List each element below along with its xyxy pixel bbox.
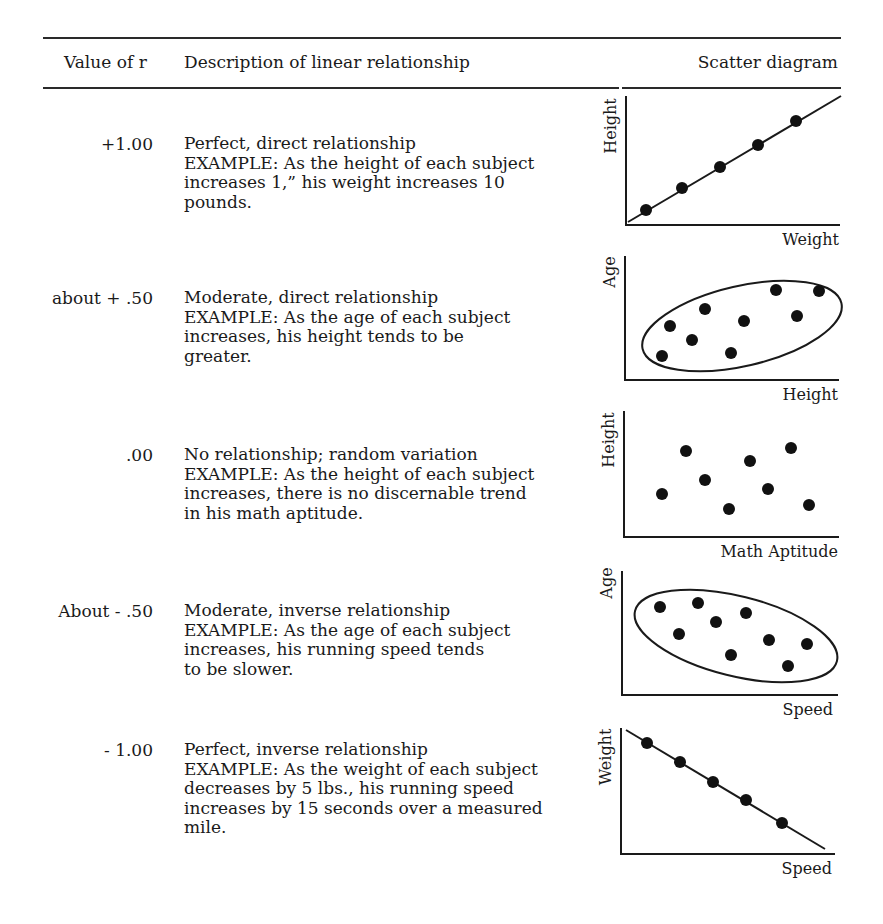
axes xyxy=(625,256,839,380)
trend-line xyxy=(626,730,825,849)
data-point xyxy=(740,607,752,619)
data-point xyxy=(744,455,756,467)
data-point xyxy=(674,756,686,768)
correlation-ellipse xyxy=(625,572,846,700)
x-axis-label: Speed xyxy=(783,700,833,719)
x-axis-label: Speed xyxy=(782,859,832,878)
data-point xyxy=(699,303,711,315)
data-point xyxy=(738,315,750,327)
data-point xyxy=(673,628,685,640)
data-point xyxy=(763,634,775,646)
data-point xyxy=(680,445,692,457)
data-point xyxy=(710,616,722,628)
data-point xyxy=(801,638,813,650)
data-point xyxy=(699,474,711,486)
y-axis-label: Height xyxy=(599,412,618,468)
data-point xyxy=(782,660,794,672)
data-point xyxy=(723,503,735,515)
data-point xyxy=(692,597,704,609)
data-point xyxy=(790,115,802,127)
data-point xyxy=(770,284,782,296)
data-point xyxy=(725,649,737,661)
x-axis-label: Height xyxy=(782,385,838,404)
data-point xyxy=(776,817,788,829)
data-point xyxy=(725,347,737,359)
data-point xyxy=(714,161,726,173)
data-point xyxy=(740,794,752,806)
axes xyxy=(624,411,839,537)
x-axis-label: Math Aptitude xyxy=(720,542,838,561)
data-point xyxy=(762,483,774,495)
data-point xyxy=(654,601,666,613)
data-point xyxy=(707,776,719,788)
data-point xyxy=(752,139,764,151)
data-point xyxy=(813,285,825,297)
data-point xyxy=(791,310,803,322)
data-point xyxy=(656,488,668,500)
data-point xyxy=(785,442,797,454)
y-axis-label: Weight xyxy=(596,728,615,785)
data-point xyxy=(656,350,668,362)
y-axis-label: Age xyxy=(600,256,619,288)
y-axis-label: Height xyxy=(601,98,620,154)
data-point xyxy=(803,499,815,511)
y-axis-label: Age xyxy=(597,567,616,599)
data-point xyxy=(664,320,676,332)
data-point xyxy=(686,334,698,346)
data-point xyxy=(640,204,652,216)
scatter-diagrams: Height Weight Age Height Height Math Apt… xyxy=(0,0,883,924)
trend-line xyxy=(628,96,841,222)
data-point xyxy=(641,737,653,749)
x-axis-label: Weight xyxy=(782,230,839,249)
data-point xyxy=(676,182,688,194)
